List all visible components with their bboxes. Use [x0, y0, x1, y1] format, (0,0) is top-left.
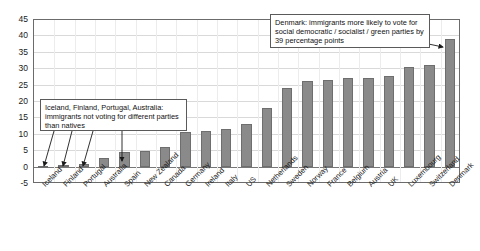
bar-switzerland [424, 65, 434, 167]
bar-netherlands [262, 108, 272, 167]
bar-uk [384, 76, 394, 166]
bar-new-zealand [140, 151, 150, 167]
bar-chart: 454035302520151050-5 IcelandFinlandPortu… [0, 0, 480, 251]
y-axis-tick: 30 [2, 64, 28, 72]
y-axis-tick: 35 [2, 48, 28, 56]
y-axis-tick: -5 [2, 179, 28, 187]
bar-belgium [343, 78, 353, 167]
x-axis-category-labels: IcelandFinlandPortugalAustraliaSpainNew … [33, 183, 460, 251]
y-axis-tick: 5 [2, 146, 28, 154]
y-axis-tick: 0 [2, 163, 28, 171]
bar-germany [180, 132, 190, 166]
y-axis-tick: 45 [2, 15, 28, 23]
bar-austria [363, 78, 373, 167]
bar-luxembourg [404, 67, 414, 167]
y-axis-tick: 40 [2, 31, 28, 39]
bar-italy [221, 129, 231, 167]
bar-iceland [38, 166, 48, 168]
bar-denmark [445, 39, 455, 167]
y-axis-tick: 20 [2, 97, 28, 105]
y-axis-tick: 25 [2, 81, 28, 89]
y-axis-tick: 15 [2, 113, 28, 121]
annotation-denmark: Denmark: immigrants more likely to vote … [270, 14, 430, 48]
bar-norway [302, 81, 312, 166]
bar-france [323, 80, 333, 167]
y-axis-tick: 10 [2, 130, 28, 138]
bar-us [241, 124, 251, 167]
annotation-low-countries: Iceland, Finland, Portugal, Australia: i… [40, 99, 187, 131]
